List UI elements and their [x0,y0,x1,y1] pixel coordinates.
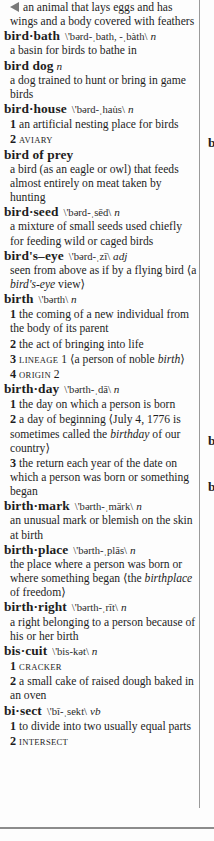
cross-reference-sense: 1 [58,353,67,366]
headword: bi·sect [4,703,42,718]
definition-text: a dog trained to hunt or bring in game b… [10,74,186,101]
definition-text: a mixture of small seeds used chiefly fo… [10,220,182,247]
part-of-speech: n [128,103,134,115]
headword: bird·bath [4,28,60,43]
dictionary-entry: bird·seed\'bərd-ˌsēd\na mixture of small… [4,205,198,248]
headword: bis·cuit [4,643,47,658]
sense-number: 2 [10,674,16,688]
definition: a right belonging to a person because of… [4,616,198,644]
part-of-speech: n [136,500,142,512]
pronunciation: \'bərd-ˌzī\ [69,251,110,262]
part-of-speech: n [114,206,120,218]
definition: seen from above as if by a flying bird ⟨… [4,264,198,292]
pronunciation: \'bis-kət\ [52,646,89,657]
headword: bird dog [4,58,54,73]
headword: bird's–eye [4,248,64,263]
sense-number: 2 [10,132,16,146]
sense-number: 4 [10,367,16,381]
cross-reference-sense: 2 [51,368,60,381]
column-divider [199,0,200,808]
definition: 3the return each year of the date on whi… [4,456,198,499]
entry-headline: birth·day\'bərth-ˌdā\n [4,382,198,397]
definition-text: the coming of a new individual from the … [10,308,189,335]
definition: 1cracker [4,659,198,674]
dictionary-entry: bis·cuit\'bis-kət\n1cracker2a small cake… [4,644,198,704]
definition-text: of freedom⟩ [10,586,66,599]
dictionary-entry: bi·sect\'bī-ˌsekt\vb1to divide into two … [4,704,198,749]
definition: 2aviary [4,132,198,147]
definition: 2intersect [4,734,198,749]
entry-headline: bird·bath\'bərd-ˌbath, -ˌbàth\n [4,29,198,44]
headword: birth·day [4,381,59,396]
pronunciation: \'bərth-ˌmärk\ [75,501,133,512]
definition-text: the day on which a person is born [19,398,175,411]
entry-headline: bird·house\'bərd-ˌhau̇s\n [4,102,198,117]
entry-headline: bird·seed\'bərd-ˌsēd\n [4,205,198,220]
sense-number: 1 [10,397,16,411]
sense-number: 3 [10,456,16,470]
dictionary-entry: birth·mark\'bərth-ˌmärk\nan unusual mark… [4,499,198,542]
definition-text: a basin for birds to bathe in [10,44,137,57]
definition-text: an artificial nesting place for birds [19,118,178,131]
definition: 2a day of beginning ⟨July 4, 1776 is som… [4,412,198,455]
entry-headline: bird of prey [4,148,198,163]
cross-reference: origin [19,370,51,380]
entry-headline: birth·right\'bərth-ˌrīt\n [4,600,198,615]
definition-text: an unusual mark or blemish on the skin a… [10,514,193,541]
continued-definition-text: an animal that lays eggs and has wings a… [10,1,194,28]
pronunciation: \'bərd-ˌsēd\ [63,207,111,218]
definition: a basin for birds to bathe in [4,44,198,58]
entry-headline: bird's–eye\'bərd-ˌzī\adj [4,249,198,264]
definition: a dog trained to hunt or bring in game b… [4,74,198,102]
definition-text: to divide into two usually equal parts [19,720,191,733]
definition-text: a right belonging to a person because of… [10,616,195,643]
dictionary-entry: bird dogna dog trained to hunt or bring … [4,59,198,102]
headword: birth·mark [4,498,70,513]
sense-number: 2 [10,734,16,748]
part-of-speech: n [121,601,127,613]
dictionary-entry: birth·place\'bərth-ˌplās\nthe place wher… [4,543,198,601]
headword: birth [4,291,34,306]
definition-text: the return each year of the date on whic… [10,457,189,498]
headword: birth·right [4,599,67,614]
definition: 1an artificial nesting place for birds [4,117,198,132]
dictionary-entry: bird's–eye\'bərd-ˌzī\adjseen from above … [4,249,198,292]
sense-number: 1 [10,719,16,733]
definition: a mixture of small seeds used chiefly fo… [4,220,198,248]
next-column-headword-fragment: b [208,136,214,150]
pronunciation: \'bərd-ˌbath, -ˌbàth\ [65,31,148,42]
continuation-arrow-icon [10,2,19,12]
sense-number: 2 [10,337,16,351]
continued-definition: an animal that lays eggs and has wings a… [4,1,198,29]
dictionary-entry: birth\'bərth\n1the coming of a new indiv… [4,292,198,382]
dictionary-entry: bird·house\'bərd-ˌhau̇s\n1an artificial … [4,102,198,147]
definition-text: ⟨a person of noble [67,353,158,366]
sense-number: 1 [10,659,16,673]
sense-number: 2 [10,412,16,426]
next-column-headword-fragment: b [208,480,214,494]
entry-headline: birth·mark\'bərth-ˌmärk\n [4,499,198,514]
part-of-speech: n [130,544,136,556]
part-of-speech: n [71,293,77,305]
example-word: birthday [110,428,149,441]
definition-text: a bird (as an eagle or owl) that feeds a… [10,163,179,204]
cross-reference: lineage [19,355,58,365]
sense-number: 3 [10,352,16,366]
entry-headline: birth·place\'bərth-ˌplās\n [4,543,198,558]
headword: birth·place [4,542,68,557]
headword: bird of prey [4,147,73,162]
cross-reference: aviary [19,135,53,145]
cross-reference: cracker [19,662,62,672]
example-word: birthplace [145,572,193,585]
part-of-speech: n [114,383,120,395]
dictionary-entry: birth·day\'bərth-ˌdā\n1the day on which … [4,382,198,499]
definition: 3lineage 1 ⟨a person of noble birth⟩ [4,352,198,367]
entry-headline: bi·sect\'bī-ˌsekt\vb [4,704,198,719]
definition-text: the act of bringing into life [19,338,144,351]
entry-headline: birth\'bərth\n [4,292,198,307]
definition-text: seen from above as if by a flying bird ⟨… [10,264,196,277]
part-of-speech: n [57,60,63,72]
example-word: bird's-eye [10,278,55,291]
definition: an unusual mark or blemish on the skin a… [4,514,198,542]
headword: bird·house [4,101,67,116]
